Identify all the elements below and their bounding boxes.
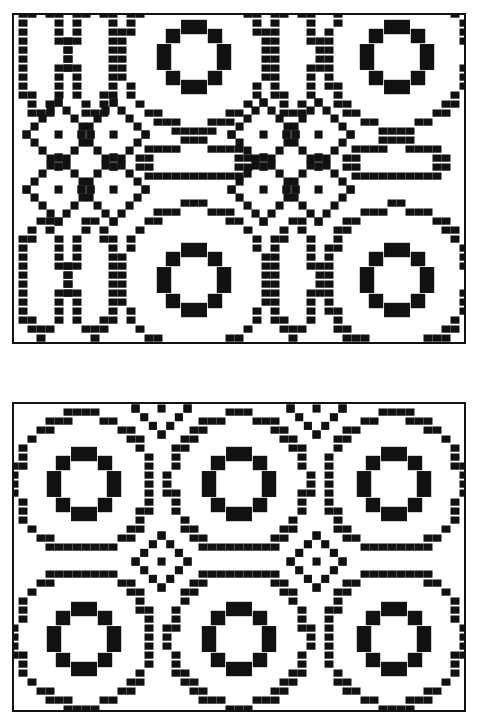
- weave-pattern-top: [14, 15, 464, 342]
- pattern-panel-bottom: [12, 402, 466, 712]
- pattern-panel-top: [12, 13, 466, 344]
- weave-pattern-bottom: [14, 404, 464, 710]
